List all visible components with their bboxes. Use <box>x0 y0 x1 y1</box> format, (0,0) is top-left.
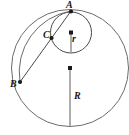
label-point-b: B <box>10 79 17 89</box>
label-point-c: C <box>43 30 50 40</box>
label-small-radius: r <box>72 34 76 44</box>
point-a-dot <box>69 9 73 13</box>
label-large-radius: R <box>74 91 81 101</box>
label-point-a: A <box>66 0 73 10</box>
figure-canvas <box>0 0 129 135</box>
geometry-figure: A B C r R <box>0 0 129 135</box>
point-b-dot <box>18 80 22 84</box>
point-c-dot <box>49 36 53 40</box>
large-circle-center-dot <box>68 66 72 70</box>
